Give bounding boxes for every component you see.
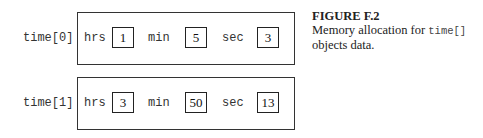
field-value-sec: 13 bbox=[257, 92, 279, 113]
object-label: time[1] bbox=[23, 96, 73, 110]
object-label: time[0] bbox=[23, 31, 73, 45]
field-value-min: 5 bbox=[185, 27, 207, 48]
field-name-min: min bbox=[148, 96, 170, 110]
field-name-hrs: hrs bbox=[84, 31, 106, 45]
field-value-sec: 3 bbox=[257, 27, 279, 48]
field-value-hrs: 3 bbox=[112, 92, 134, 113]
field-name-sec: sec bbox=[222, 96, 244, 110]
field-name-sec: sec bbox=[222, 31, 244, 45]
field-name-hrs: hrs bbox=[84, 96, 106, 110]
caption-text-end: objects data. bbox=[312, 38, 374, 52]
field-value-hrs: 1 bbox=[112, 27, 134, 48]
figure-caption: FIGURE F.2 Memory allocation for time[] … bbox=[312, 9, 482, 52]
figure-number: FIGURE F.2 bbox=[312, 9, 482, 23]
field-name-min: min bbox=[148, 31, 170, 45]
object-memory-block: hrs 1 min 5 sec 3 bbox=[77, 12, 295, 65]
caption-text: Memory allocation for bbox=[312, 23, 428, 37]
object-memory-block: hrs 3 min 50 sec 13 bbox=[77, 77, 295, 130]
caption-code: time[] bbox=[428, 25, 466, 37]
field-value-min: 50 bbox=[185, 92, 207, 113]
